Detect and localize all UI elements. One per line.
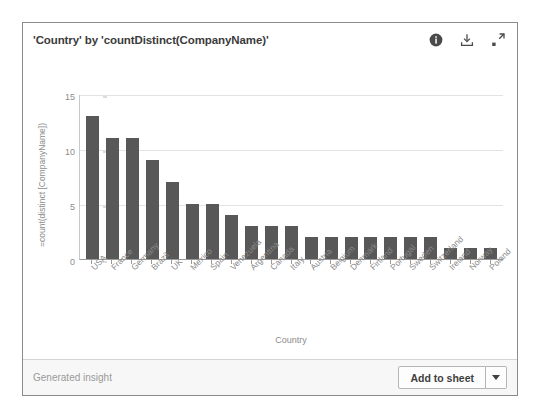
bar-slot [401, 95, 421, 259]
insight-card: 'Country' by 'countDistinct(CompanyName)… [22, 22, 518, 396]
y-axis-tick-label: 5 [51, 202, 75, 212]
add-to-sheet-dropdown-button[interactable] [486, 366, 507, 389]
bar[interactable] [186, 204, 199, 259]
info-icon[interactable] [429, 33, 443, 47]
bar-slot [421, 95, 441, 259]
bar-slot [480, 95, 500, 259]
bar-slot [83, 95, 103, 259]
bar-slot [242, 95, 262, 259]
x-axis-tick-labels: USAFranceGermanyBrazilUKMexicoSpainVenez… [79, 265, 503, 327]
bar-slot [321, 95, 341, 259]
card-footer: Generated insight Add to sheet [23, 359, 517, 395]
plot-frame [79, 95, 503, 260]
bar-slot [182, 95, 202, 259]
bar-slot [381, 95, 401, 259]
bar-slot [202, 95, 222, 259]
bar-slot [282, 95, 302, 259]
bar[interactable] [86, 116, 99, 259]
bar-slot [262, 95, 282, 259]
bar[interactable] [126, 138, 139, 259]
chart-area: =count(distinct [CompanyName]) 051015 US… [23, 57, 517, 362]
add-to-sheet-button[interactable]: Add to sheet [398, 366, 486, 389]
bar-slot [123, 95, 143, 259]
bar-slot [143, 95, 163, 259]
bar[interactable] [106, 138, 119, 259]
bar-slot [460, 95, 480, 259]
y-axis-tick-label: 0 [51, 257, 75, 267]
bar-slot [361, 95, 381, 259]
generated-insight-label: Generated insight [33, 372, 398, 383]
card-header: 'Country' by 'countDistinct(CompanyName)… [23, 23, 517, 57]
bar-slot [162, 95, 182, 259]
y-axis-tick-labels: 051015 [51, 97, 75, 258]
footer-actions: Add to sheet [398, 366, 507, 389]
bar-slot [341, 95, 361, 259]
x-axis-title: Country [79, 335, 503, 345]
download-icon[interactable] [460, 33, 474, 47]
y-axis-tick-label: 15 [51, 92, 75, 102]
header-icon-group [429, 33, 505, 47]
bar[interactable] [166, 182, 179, 259]
page-title: 'Country' by 'countDistinct(CompanyName)… [33, 34, 429, 46]
y-axis-tick-label: 10 [51, 147, 75, 157]
y-axis-title: =count(distinct [CompanyName]) [37, 100, 47, 270]
bar-series [80, 95, 503, 259]
bar-slot [301, 95, 321, 259]
bar-slot [222, 95, 242, 259]
chevron-down-icon [492, 375, 500, 380]
bar-slot [103, 95, 123, 259]
expand-icon[interactable] [491, 33, 505, 47]
